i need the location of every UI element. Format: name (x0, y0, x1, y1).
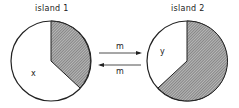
island-diagram (0, 0, 239, 108)
island-1-title: island 1 (35, 4, 69, 13)
island-2-pie (147, 21, 228, 101)
island-2-variable: y (160, 47, 165, 56)
migration-top-label: m (116, 42, 124, 51)
migration-bottom-label: m (116, 67, 124, 76)
island-2-title: island 2 (171, 4, 205, 13)
arrow-left-head (98, 63, 104, 67)
island-1-pie (11, 21, 91, 101)
arrow-right-head (136, 51, 142, 55)
migration-arrows (98, 51, 142, 67)
island-1-variable: x (31, 69, 36, 78)
